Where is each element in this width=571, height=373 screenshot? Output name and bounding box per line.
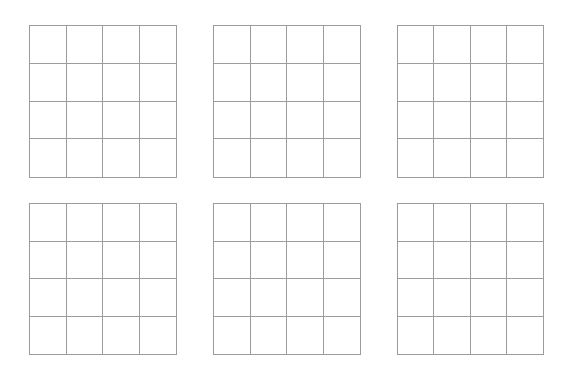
grid-cell[interactable] [324, 204, 361, 242]
grid-cell[interactable] [471, 242, 507, 280]
grid-cell[interactable] [434, 242, 470, 280]
grid-cell[interactable] [398, 102, 434, 140]
grid-cell[interactable] [324, 279, 361, 317]
grid-cell[interactable] [434, 64, 470, 102]
grid-cell[interactable] [434, 279, 470, 317]
grid-cell[interactable] [324, 102, 361, 140]
grid-cell[interactable] [67, 139, 104, 177]
grid-cell[interactable] [103, 242, 140, 280]
grid-cell[interactable] [398, 26, 434, 64]
grid-cell[interactable] [434, 102, 470, 140]
grid-cell[interactable] [214, 102, 251, 140]
grid-cell[interactable] [471, 26, 507, 64]
grid-cell[interactable] [507, 139, 543, 177]
grid-cell[interactable] [507, 279, 543, 317]
grid-board-4 [29, 203, 177, 355]
grid-cell[interactable] [214, 317, 251, 355]
grid-cell[interactable] [140, 102, 177, 140]
grid-cell[interactable] [287, 317, 324, 355]
grid-cell[interactable] [251, 139, 288, 177]
grid-cell[interactable] [324, 26, 361, 64]
grid-cell[interactable] [287, 204, 324, 242]
grid-cell[interactable] [30, 102, 67, 140]
grid-board-2 [213, 25, 361, 178]
grid-cell[interactable] [214, 279, 251, 317]
grid-cell[interactable] [287, 26, 324, 64]
grid-board-6 [397, 203, 544, 355]
grid-cell[interactable] [287, 64, 324, 102]
grid-cell[interactable] [251, 204, 288, 242]
grid-cell[interactable] [324, 64, 361, 102]
grid-cell[interactable] [251, 242, 288, 280]
grid-cell[interactable] [103, 317, 140, 355]
grid-cell[interactable] [67, 102, 104, 140]
grid-cell[interactable] [140, 242, 177, 280]
grid-cell[interactable] [103, 26, 140, 64]
grid-cell[interactable] [507, 26, 543, 64]
grid-cell[interactable] [507, 204, 543, 242]
grid-cell[interactable] [67, 242, 104, 280]
grid-cell[interactable] [214, 64, 251, 102]
grid-cell[interactable] [30, 242, 67, 280]
grid-cell[interactable] [507, 317, 543, 355]
grid-board-5 [213, 203, 361, 355]
grid-cell[interactable] [251, 317, 288, 355]
grid-cell[interactable] [324, 242, 361, 280]
grid-cell[interactable] [398, 139, 434, 177]
grid-cell[interactable] [324, 317, 361, 355]
grid-cell[interactable] [103, 204, 140, 242]
grid-cell[interactable] [67, 204, 104, 242]
grid-cell[interactable] [251, 26, 288, 64]
grid-cell[interactable] [324, 139, 361, 177]
grid-cell[interactable] [471, 139, 507, 177]
grid-cell[interactable] [30, 26, 67, 64]
grid-cell[interactable] [471, 204, 507, 242]
grid-cell[interactable] [434, 317, 470, 355]
grid-cell[interactable] [398, 317, 434, 355]
grid-cell[interactable] [398, 204, 434, 242]
grid-cell[interactable] [471, 317, 507, 355]
grid-cell[interactable] [140, 279, 177, 317]
grid-cell[interactable] [67, 26, 104, 64]
grid-cell[interactable] [507, 64, 543, 102]
grid-cell[interactable] [30, 139, 67, 177]
grid-cell[interactable] [140, 26, 177, 64]
grid-cell[interactable] [434, 26, 470, 64]
grid-cell[interactable] [67, 317, 104, 355]
grid-cell[interactable] [434, 204, 470, 242]
grid-cell[interactable] [398, 242, 434, 280]
grid-cell[interactable] [140, 139, 177, 177]
grid-cell[interactable] [287, 242, 324, 280]
grid-cell[interactable] [287, 279, 324, 317]
grid-cell[interactable] [103, 279, 140, 317]
grid-cell[interactable] [67, 64, 104, 102]
grid-cell[interactable] [287, 102, 324, 140]
grid-cell[interactable] [103, 139, 140, 177]
grid-cell[interactable] [507, 102, 543, 140]
grid-cell[interactable] [103, 102, 140, 140]
grid-cell[interactable] [398, 279, 434, 317]
grid-cell[interactable] [507, 242, 543, 280]
grid-cell[interactable] [30, 279, 67, 317]
grid-cell[interactable] [398, 64, 434, 102]
grid-cell[interactable] [471, 102, 507, 140]
grid-cell[interactable] [251, 279, 288, 317]
grid-cell[interactable] [214, 204, 251, 242]
grid-cell[interactable] [214, 242, 251, 280]
grid-cell[interactable] [471, 64, 507, 102]
grid-cell[interactable] [251, 102, 288, 140]
grid-cell[interactable] [30, 64, 67, 102]
grid-cell[interactable] [214, 139, 251, 177]
grid-cell[interactable] [471, 279, 507, 317]
grid-cell[interactable] [251, 64, 288, 102]
grid-cell[interactable] [140, 64, 177, 102]
grid-cell[interactable] [30, 204, 67, 242]
grid-cell[interactable] [140, 317, 177, 355]
grid-cell[interactable] [30, 317, 67, 355]
grid-cell[interactable] [103, 64, 140, 102]
grid-cell[interactable] [287, 139, 324, 177]
grid-cell[interactable] [434, 139, 470, 177]
grid-cell[interactable] [214, 26, 251, 64]
grid-cell[interactable] [140, 204, 177, 242]
grid-cell[interactable] [67, 279, 104, 317]
